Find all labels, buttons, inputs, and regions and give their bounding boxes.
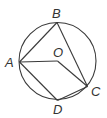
- label-o: O: [53, 45, 63, 60]
- segment-ab: [20, 23, 58, 63]
- segment-dc: [58, 87, 88, 101]
- geometry-figure: A B C D O: [0, 0, 107, 118]
- segment-ao: [20, 61, 58, 62]
- label-a: A: [4, 55, 14, 70]
- segment-oc: [58, 61, 88, 87]
- label-d: D: [53, 102, 62, 117]
- label-c: C: [91, 84, 101, 99]
- label-b: B: [52, 6, 61, 21]
